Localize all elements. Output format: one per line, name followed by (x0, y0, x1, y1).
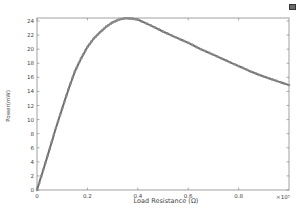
data-point (50, 141, 53, 144)
data-point (74, 70, 77, 73)
data-point (237, 65, 240, 68)
data-point (208, 52, 211, 55)
data-point (221, 57, 224, 60)
y-tick-label: 18 (27, 60, 34, 66)
data-point (71, 76, 74, 79)
data-point (212, 54, 215, 57)
data-point (63, 101, 66, 104)
data-point (225, 59, 228, 62)
data-point (65, 94, 68, 97)
data-point (229, 61, 232, 64)
data-point (267, 77, 270, 80)
data-point (141, 20, 144, 23)
data-point (191, 44, 194, 47)
data-point (95, 35, 98, 38)
data-point (187, 42, 190, 45)
y-tick-label: 24 (27, 18, 34, 24)
data-point (288, 84, 291, 87)
data-point (61, 107, 64, 110)
data-point (86, 46, 89, 49)
power-vs-load-resistance-chart: 02468101214161820222400.20.40.60.8 Load … (0, 0, 302, 212)
data-point (59, 114, 62, 117)
data-point (36, 189, 39, 192)
data-point (67, 88, 70, 91)
data-point (170, 34, 173, 37)
data-point (179, 38, 182, 41)
y-tick-label: 14 (27, 88, 34, 94)
x-axis-multiplier: ×10⁵ (276, 194, 290, 200)
y-tick-label: 0 (31, 187, 35, 193)
data-point (76, 66, 79, 69)
data-point (174, 36, 177, 39)
x-tick-label: 0.2 (83, 193, 92, 199)
data-point (84, 50, 87, 53)
data-point (250, 70, 253, 73)
y-tick-label: 20 (27, 46, 34, 52)
data-point (69, 82, 72, 85)
data-point (233, 63, 236, 66)
data-point (258, 74, 261, 77)
data-point (57, 120, 60, 123)
data-point (166, 32, 169, 35)
y-axis-label: Power(mW) (5, 90, 11, 122)
data-point (44, 162, 47, 165)
data-point (145, 22, 148, 25)
data-point (204, 50, 207, 53)
y-tick-label: 8 (31, 131, 35, 137)
data-point (149, 24, 152, 27)
y-tick-label: 10 (27, 117, 34, 123)
y-tick-label: 16 (27, 74, 34, 80)
data-point (90, 40, 93, 43)
data-point (242, 67, 245, 70)
data-point (246, 69, 249, 72)
y-tick-label: 4 (31, 159, 35, 165)
data-point (82, 53, 85, 56)
chart-canvas: 02468101214161820222400.20.40.60.8 Load … (0, 0, 302, 212)
plot-frame (37, 18, 289, 190)
data-point (88, 43, 91, 46)
data-point (275, 80, 278, 83)
axes: 02468101214161820222400.20.40.60.8 (27, 18, 289, 199)
data-point (97, 33, 100, 36)
y-tick-label: 22 (27, 32, 34, 38)
y-tick-label: 2 (31, 173, 35, 179)
data-point (137, 18, 140, 21)
data-point (80, 57, 83, 60)
data-point (254, 72, 257, 75)
data-point (92, 37, 95, 40)
data-point (162, 30, 165, 33)
data-point (55, 127, 58, 130)
x-tick-label: 0 (35, 193, 39, 199)
data-point (200, 48, 203, 51)
data-point (78, 62, 81, 65)
data-point (279, 81, 282, 84)
data-point (216, 55, 219, 58)
data-point (38, 182, 41, 185)
power-curve (37, 18, 289, 190)
data-point (101, 29, 104, 32)
data-point (153, 26, 156, 29)
data-point (46, 155, 49, 158)
y-tick-label: 6 (31, 145, 35, 151)
data-point (158, 28, 161, 31)
data-point (271, 78, 274, 81)
data-point (103, 27, 106, 30)
y-tick-label: 12 (27, 103, 34, 109)
x-axis-label: Load Resistance (Ω) (134, 197, 199, 205)
data-point (53, 134, 56, 137)
data-point (183, 40, 186, 43)
data-point (284, 82, 287, 85)
data-point (40, 175, 43, 178)
data-point (48, 148, 51, 151)
data-point (195, 46, 198, 49)
export-image-icon[interactable] (289, 4, 296, 10)
data-series (36, 17, 291, 191)
data-point (263, 75, 266, 78)
x-tick-label: 0.8 (234, 193, 243, 199)
data-point (42, 168, 45, 171)
data-point (99, 31, 102, 34)
